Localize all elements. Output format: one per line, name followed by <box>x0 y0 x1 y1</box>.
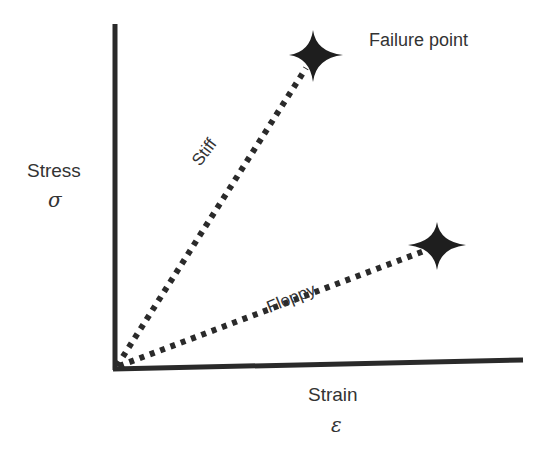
y-axis-symbol: σ <box>48 188 62 212</box>
stiff-failure-star-icon <box>289 30 343 82</box>
floppy-failure-star-icon <box>408 222 466 270</box>
stress-strain-diagram <box>0 0 551 455</box>
x-axis <box>113 360 523 369</box>
failure-point-label: Failure point <box>369 30 468 51</box>
x-axis-symbol: ε <box>331 413 342 437</box>
y-axis-label: Stress <box>27 160 81 182</box>
x-axis-label: Strain <box>308 384 358 406</box>
stiff-line <box>117 68 306 366</box>
